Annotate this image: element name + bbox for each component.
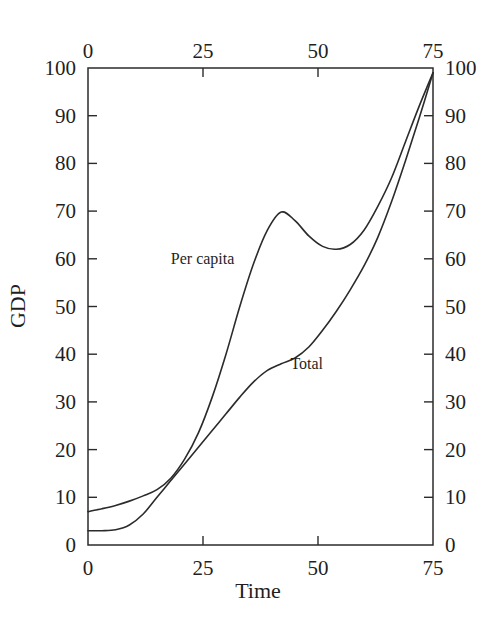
y-tick-label-right: 20 bbox=[445, 438, 466, 462]
x-tick-label-top: 0 bbox=[83, 39, 94, 63]
x-axis-title: Time bbox=[235, 578, 281, 603]
y-tick-label: 0 bbox=[66, 533, 77, 557]
chart-figure: 0255075 0255075 0102030405060708090100 0… bbox=[0, 0, 487, 623]
x-tick-label: 0 bbox=[83, 556, 94, 580]
y-tick-label-right: 50 bbox=[445, 295, 466, 319]
y-tick-label-right: 10 bbox=[445, 485, 466, 509]
y-tick-label-right: 40 bbox=[445, 342, 466, 366]
y-tick-label: 30 bbox=[55, 390, 76, 414]
gdp-line-chart: 0255075 0255075 0102030405060708090100 0… bbox=[0, 0, 487, 623]
x-tick-label-top: 25 bbox=[193, 39, 214, 63]
x-tick-label: 25 bbox=[193, 556, 214, 580]
y-tick-label-right: 90 bbox=[445, 104, 466, 128]
y-tick-label: 50 bbox=[55, 295, 76, 319]
y-tick-label-right: 30 bbox=[445, 390, 466, 414]
y-tick-label-right: 80 bbox=[445, 151, 466, 175]
y-axis-title: GDP bbox=[5, 284, 30, 328]
x-tick-label: 75 bbox=[423, 556, 444, 580]
x-tick-label-top: 75 bbox=[423, 39, 444, 63]
y-tick-label: 100 bbox=[45, 56, 77, 80]
y-tick-label: 70 bbox=[55, 199, 76, 223]
y-tick-label-right: 0 bbox=[445, 533, 456, 557]
series-label-per-capita: Per capita bbox=[171, 250, 235, 268]
y-tick-label: 20 bbox=[55, 438, 76, 462]
y-tick-label: 40 bbox=[55, 342, 76, 366]
y-tick-label: 90 bbox=[55, 104, 76, 128]
y-tick-label: 80 bbox=[55, 151, 76, 175]
y-tick-label: 60 bbox=[55, 247, 76, 271]
x-tick-label: 50 bbox=[308, 556, 329, 580]
series-label-total: Total bbox=[290, 355, 323, 372]
y-tick-label-right: 100 bbox=[445, 56, 477, 80]
y-tick-label-right: 60 bbox=[445, 247, 466, 271]
x-tick-label-top: 50 bbox=[308, 39, 329, 63]
y-tick-label-right: 70 bbox=[445, 199, 466, 223]
y-tick-label: 10 bbox=[55, 485, 76, 509]
